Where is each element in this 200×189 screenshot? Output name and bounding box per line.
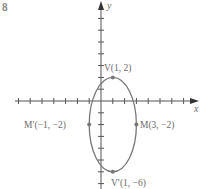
label-m: M(3, −2) [140, 120, 174, 131]
y-axis-label: y [106, 0, 112, 11]
label-m-prime: M′(−1, −2) [24, 120, 66, 131]
point-v [111, 75, 115, 79]
point-m [134, 123, 138, 127]
point-m-prime [87, 123, 91, 127]
ellipse-diagram: 8 x y V(1, 2) V′(1, −6) M(3, −2) M′(−1, … [0, 0, 200, 189]
x-axis-label: x [193, 103, 199, 114]
y-axis [98, 1, 104, 189]
point-v-prime [111, 170, 115, 174]
label-v: V(1, 2) [104, 63, 131, 74]
ellipse-curve [89, 77, 136, 171]
problem-number: 8 [2, 2, 8, 13]
y-axis-arrow-icon [98, 1, 104, 10]
label-v-prime: V′(1, −6) [111, 178, 146, 189]
x-axis [15, 98, 199, 104]
